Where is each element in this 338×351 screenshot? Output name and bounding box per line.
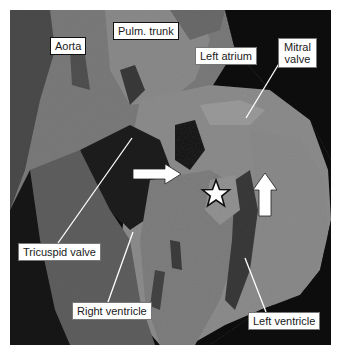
label-tricuspid-valve: Tricuspid valve: [18, 243, 101, 261]
label-right-ventricle: Right ventricle: [72, 302, 152, 320]
label-mitral-valve: Mitral valve: [278, 38, 317, 68]
label-mitral-valve-line1: Mitral: [284, 41, 311, 53]
label-pulm-trunk: Pulm. trunk: [113, 22, 179, 40]
label-mitral-valve-line2: valve: [284, 53, 311, 65]
label-left-atrium: Left atrium: [195, 47, 257, 65]
label-aorta: Aorta: [50, 37, 86, 55]
label-left-ventricle: Left ventricle: [248, 312, 320, 330]
heart-specimen-figure: Aorta Pulm. trunk Left atrium Mitral val…: [0, 0, 338, 351]
